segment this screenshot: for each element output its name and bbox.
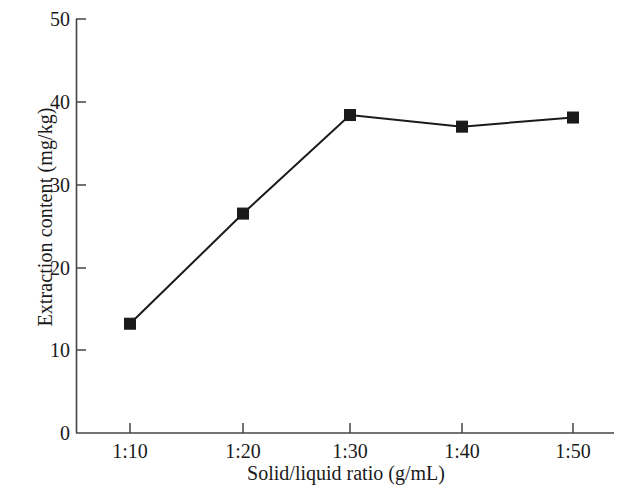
- y-axis-ticks: [76, 19, 86, 350]
- data-point-1:20: [238, 208, 249, 219]
- chart-figure: Extraction content (mg/kg) 50 40 30 20 1…: [0, 0, 624, 491]
- data-point-markers: [125, 110, 579, 330]
- data-point-1:50: [568, 112, 579, 123]
- data-point-1:30: [345, 110, 356, 121]
- plot-area: [0, 0, 624, 491]
- data-point-1:10: [125, 318, 136, 329]
- data-series-line: [130, 115, 573, 324]
- data-point-1:40: [457, 121, 468, 132]
- x-axis-ticks: [130, 423, 573, 433]
